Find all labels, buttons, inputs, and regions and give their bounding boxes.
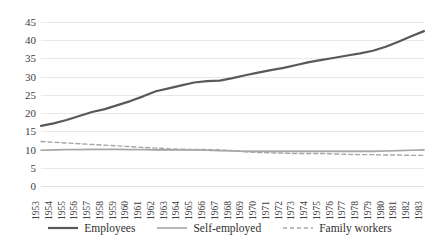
x-tick-label-1982: 1982 [401, 201, 411, 220]
x-tick-label-1965: 1965 [184, 201, 194, 220]
x-tick-label-1978: 1978 [350, 201, 360, 220]
x-tick-label-1968: 1968 [223, 201, 233, 220]
x-tick-label-1969: 1969 [235, 201, 245, 220]
y-tick-label-15: 15 [25, 126, 36, 137]
x-tick-label-1963: 1963 [159, 201, 169, 220]
x-tick-label-1970: 1970 [248, 201, 258, 220]
x-tick-label-1957: 1957 [82, 201, 92, 220]
y-tick-label-0: 0 [31, 181, 37, 192]
legend-swatch-employees [48, 223, 78, 233]
x-tick-label-1975: 1975 [312, 201, 322, 220]
x-tick-label-1959: 1959 [108, 201, 118, 220]
legend-item-employees[interactable]: Employees [48, 222, 135, 234]
x-axis: 1953195419551956195719581959196019611962… [41, 188, 424, 222]
y-tick-label-40: 40 [25, 35, 36, 46]
series-line-employees [41, 31, 424, 126]
x-tick-label-1955: 1955 [57, 201, 67, 220]
x-tick-label-1958: 1958 [95, 201, 105, 220]
legend-label: Family workers [319, 222, 392, 234]
x-tick-label-1981: 1981 [388, 201, 398, 220]
x-tick-label-1976: 1976 [325, 201, 335, 220]
x-tick-label-1954: 1954 [44, 201, 54, 220]
legend: EmployeesSelf-employedFamily workers [0, 222, 440, 234]
legend-label: Self-employed [193, 222, 261, 234]
series-layer [41, 22, 424, 186]
x-tick-label-1967: 1967 [210, 201, 220, 220]
legend-item-family-workers[interactable]: Family workers [283, 222, 392, 234]
x-tick-label-1979: 1979 [363, 201, 373, 220]
y-tick-label-45: 45 [25, 17, 36, 28]
y-tick-label-20: 20 [25, 108, 36, 119]
x-tick-label-1977: 1977 [337, 201, 347, 220]
y-tick-label-35: 35 [25, 53, 36, 64]
y-tick-label-30: 30 [25, 71, 36, 82]
legend-item-self-employed[interactable]: Self-employed [157, 222, 261, 234]
legend-swatch-self-employed [157, 223, 187, 233]
x-tick-label-1960: 1960 [120, 201, 130, 220]
x-tick-label-1974: 1974 [299, 201, 309, 220]
y-tick-label-25: 25 [25, 89, 36, 100]
x-tick-label-1964: 1964 [171, 201, 181, 220]
x-tick-label-1956: 1956 [69, 201, 79, 220]
x-tick-label-1966: 1966 [197, 201, 207, 220]
gridline-0 [41, 186, 424, 187]
line-chart: 051015202530354045 195319541955195619571… [0, 0, 440, 247]
x-tick-label-1972: 1972 [274, 201, 284, 220]
x-tick-label-1962: 1962 [146, 201, 156, 220]
x-tick-label-1971: 1971 [261, 201, 271, 220]
x-tick-label-1953: 1953 [31, 201, 41, 220]
legend-swatch-family-workers [283, 223, 313, 233]
x-tick-label-1973: 1973 [286, 201, 296, 220]
legend-label: Employees [84, 222, 135, 234]
y-tick-label-10: 10 [25, 144, 36, 155]
y-tick-label-5: 5 [31, 162, 37, 173]
x-tick-label-1983: 1983 [414, 201, 424, 220]
x-tick-label-1980: 1980 [376, 201, 386, 220]
x-tick-label-1961: 1961 [133, 201, 143, 220]
